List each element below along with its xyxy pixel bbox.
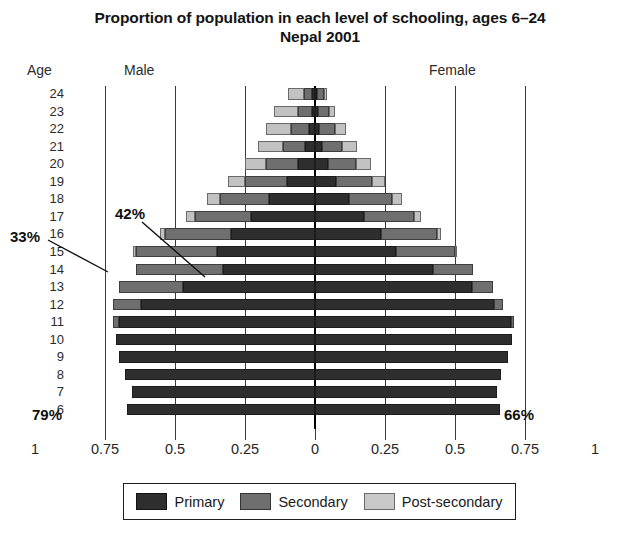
axis-header-female: Female	[429, 62, 476, 78]
legend-item-secondary[interactable]: Secondary	[240, 493, 347, 510]
bar-row-age-8	[0, 369, 640, 381]
bar-segment-female-secondary-age-19	[336, 176, 372, 188]
bar-segment-male-secondary-age-19	[245, 176, 287, 188]
tick-label-2: 0.5	[165, 441, 185, 457]
bar-segment-male-primary-age-12	[141, 299, 315, 311]
bar-segment-female-primary-age-18	[315, 193, 349, 205]
bar-row-age-9	[0, 351, 640, 363]
bar-segment-male-post-age-15	[133, 246, 136, 258]
bar-segment-male-post-age-22	[266, 123, 291, 135]
bar-segment-female-post-age-15	[455, 246, 457, 258]
bar-row-age-24	[0, 88, 640, 100]
bar-segment-female-secondary-age-12	[494, 299, 502, 311]
bar-segment-female-secondary-age-15	[396, 246, 455, 258]
x-axis-ticks	[0, 429, 640, 441]
bar-segment-female-post-age-22	[335, 123, 346, 135]
bar-segment-male-secondary-age-21	[283, 141, 305, 153]
tick-label-3: 0.25	[231, 441, 259, 457]
tick-label-6: 0.5	[445, 441, 465, 457]
bar-segment-female-secondary-age-24	[317, 88, 324, 100]
bar-segment-male-primary-age-11	[119, 316, 315, 328]
bar-segment-male-primary-age-18	[269, 193, 315, 205]
legend-swatch-secondary-icon	[240, 493, 271, 510]
bar-segment-female-primary-age-21	[315, 141, 322, 153]
bar-segment-female-primary-age-15	[315, 246, 396, 258]
bar-segment-male-primary-age-7	[132, 386, 315, 398]
bar-segment-male-secondary-age-15	[136, 246, 217, 258]
tick-label-4: 0	[311, 441, 319, 457]
bar-segment-male-primary-age-9	[119, 351, 315, 363]
bar-segment-male-primary-age-16	[231, 228, 315, 240]
bar-row-age-13	[0, 281, 640, 293]
bar-segment-female-secondary-age-23	[318, 106, 329, 118]
legend-item-primary[interactable]: Primary	[136, 493, 224, 510]
annotation-66: 66%	[504, 406, 534, 423]
tick-2	[175, 429, 176, 440]
bar-segment-female-primary-age-10	[315, 334, 512, 346]
chart-title-line1: Proportion of population in each level o…	[94, 9, 545, 26]
bar-segment-male-secondary-age-14	[136, 264, 223, 276]
annotation-42: 42%	[115, 205, 145, 222]
axis-header-age: Age	[27, 62, 52, 78]
tick-3	[245, 429, 246, 440]
bar-segment-female-primary-age-19	[315, 176, 336, 188]
bar-segment-male-primary-age-17	[251, 211, 315, 223]
legend-swatch-primary-icon	[136, 493, 167, 510]
bar-segment-male-primary-age-20	[298, 158, 315, 170]
bar-row-age-7	[0, 386, 640, 398]
bar-row-age-12	[0, 299, 640, 311]
bar-segment-male-post-age-17	[186, 211, 194, 223]
bar-row-age-11	[0, 316, 640, 328]
bar-segment-male-primary-age-10	[116, 334, 315, 346]
legend-item-post[interactable]: Post-secondary	[364, 493, 503, 510]
tick-6	[455, 429, 456, 440]
chart-title-line2: Nepal 2001	[0, 27, 640, 46]
bar-segment-female-secondary-age-14	[433, 264, 474, 276]
bar-segment-female-post-age-18	[392, 193, 402, 205]
bar-segment-female-primary-age-14	[315, 264, 433, 276]
bar-segment-male-primary-age-15	[217, 246, 315, 258]
bar-segment-female-primary-age-17	[315, 211, 364, 223]
bar-segment-male-secondary-age-22	[291, 123, 309, 135]
bar-segment-male-primary-age-13	[183, 281, 315, 293]
bar-segment-male-secondary-age-24	[304, 88, 312, 100]
chart-canvas: Proportion of population in each level o…	[0, 0, 640, 542]
chart-legend: PrimarySecondaryPost-secondary	[123, 483, 516, 520]
bar-segment-female-primary-age-13	[315, 281, 472, 293]
bar-segment-female-post-age-19	[372, 176, 385, 188]
bar-segment-male-secondary-age-20	[266, 158, 298, 170]
legend-label-post: Post-secondary	[402, 494, 503, 510]
bar-segment-male-post-age-16	[160, 228, 166, 240]
bar-segment-male-secondary-age-16	[165, 228, 231, 240]
bar-segment-female-primary-age-20	[315, 158, 328, 170]
bar-segment-female-post-age-24	[324, 88, 327, 100]
annotation-79: 79%	[32, 406, 62, 423]
bar-segment-male-primary-age-19	[287, 176, 315, 188]
bar-segment-female-post-age-23	[329, 106, 335, 118]
chart-title: Proportion of population in each level o…	[0, 8, 640, 46]
bar-row-age-19	[0, 176, 640, 188]
bar-segment-male-post-age-18	[207, 193, 220, 205]
bar-row-age-20	[0, 158, 640, 170]
bar-segment-female-secondary-age-13	[472, 281, 493, 293]
bar-segment-male-post-age-20	[245, 158, 266, 170]
bar-segment-male-primary-age-21	[305, 141, 315, 153]
bar-segment-female-post-age-16	[437, 228, 441, 240]
tick-5	[385, 429, 386, 440]
bar-row-age-17	[0, 211, 640, 223]
bar-segment-male-post-age-19	[228, 176, 245, 188]
bar-segment-female-secondary-age-18	[349, 193, 392, 205]
bar-segment-female-primary-age-11	[315, 316, 511, 328]
bar-segment-female-post-age-17	[414, 211, 421, 223]
bar-segment-male-secondary-age-23	[298, 106, 312, 118]
bar-segment-male-primary-age-6	[127, 404, 315, 416]
bar-segment-male-primary-age-8	[125, 369, 315, 381]
tick-7	[525, 429, 526, 440]
bar-segment-male-post-age-24	[288, 88, 303, 100]
bar-row-age-14	[0, 264, 640, 276]
tick-label-7: 0.75	[511, 441, 539, 457]
bar-segment-female-secondary-age-11	[511, 316, 514, 328]
bar-segment-male-post-age-21	[258, 141, 283, 153]
bar-segment-male-secondary-age-18	[220, 193, 269, 205]
bar-row-age-16	[0, 228, 640, 240]
